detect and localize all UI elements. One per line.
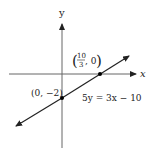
graph-line-lower [16,98,62,126]
x-intercept-point [98,72,102,76]
x-intercept-label: ( 10 3 , 0 ) [72,52,102,70]
svg-text:): ) [96,52,102,70]
svg-text:, 0: , 0 [85,56,97,66]
y-axis-label: y [58,7,65,18]
coordinate-plane: x y ( 10 3 , 0 ) (0, −2) 5y = 3x − 10 [0,0,149,153]
svg-text:3: 3 [79,61,83,69]
y-intercept-label: (0, −2) [31,88,63,98]
equation-label: 5y = 3x − 10 [82,93,142,103]
x-axis-label: x [140,68,146,79]
